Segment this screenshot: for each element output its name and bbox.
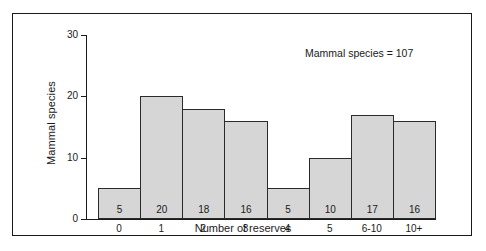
x-axis-title: Number of reserves [0,222,486,234]
bar: 10 [309,158,352,219]
y-axis-tick-label: 20 [67,89,78,102]
y-axis-tick: 30 [81,35,86,36]
y-axis-title-text: Mammal species [45,63,57,183]
y-axis-tick-mark [81,35,86,36]
y-axis-tick: 0 [81,219,86,220]
bar-value-label: 16 [394,204,435,216]
bar-value-label: 17 [352,204,393,216]
bar-value-label: 20 [141,204,182,216]
y-axis-tick-mark [81,158,86,159]
y-axis-tick-mark [81,219,86,220]
bar-value-label: 10 [310,204,351,216]
y-axis-tick-mark [81,96,86,97]
y-axis-tick: 20 [81,96,86,97]
bars-group: 52018165101716 [98,35,435,219]
x-axis-line [86,219,436,220]
bar: 16 [393,121,436,219]
bar: 18 [182,109,225,219]
bar: 5 [267,188,310,219]
bar: 17 [351,115,394,219]
bar: 20 [140,96,183,219]
bar-value-label: 18 [183,204,224,216]
y-axis-tick-label: 10 [67,151,78,164]
bar: 16 [224,121,267,219]
bar-value-label: 5 [99,204,140,216]
bar-value-label: 16 [225,204,266,216]
bar: 5 [98,188,141,219]
figure-frame: Mammal species = 107 0102030 Mammal spec… [12,13,472,236]
y-axis-line [86,35,87,220]
y-axis-tick-label: 30 [67,28,78,41]
bar-value-label: 5 [268,204,309,216]
y-axis-tick: 10 [81,158,86,159]
